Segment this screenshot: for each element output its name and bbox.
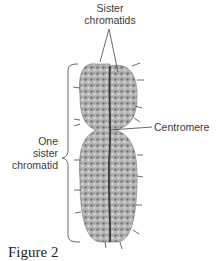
label-line: chromatids: [83, 14, 137, 26]
left-chromatid: [80, 64, 110, 242]
label-line: sister: [6, 147, 58, 159]
one-sister-chromatid-label: One sister chromatid: [6, 135, 58, 171]
centromere-label: Centromere: [154, 121, 209, 133]
label-line: One: [6, 135, 58, 147]
sister-chromatids-label: Sister chromatids: [83, 2, 137, 26]
label-line: chromatid: [6, 159, 58, 171]
right-chromatid: [110, 65, 137, 242]
figure-caption: Figure 2: [8, 244, 58, 261]
label-line: Sister: [83, 2, 137, 14]
